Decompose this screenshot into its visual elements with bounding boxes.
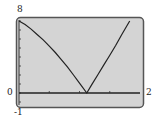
- y-max-label: 8: [17, 5, 23, 14]
- calculator-screen: [0, 0, 157, 118]
- y-min-label: -1: [14, 108, 23, 117]
- x-max-label: 2: [146, 88, 152, 97]
- x-min-label: 0: [7, 88, 13, 97]
